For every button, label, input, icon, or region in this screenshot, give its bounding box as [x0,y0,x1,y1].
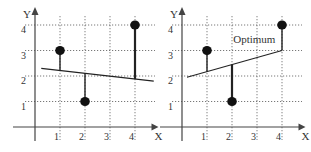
x-tick-label: 4 [276,131,281,142]
data-point [55,46,65,55]
x-tick-label: 3 [251,131,256,142]
y-axis-arrow-icon [179,7,186,15]
x-axis-label: X [302,130,310,142]
y-tick-label: 4 [21,24,26,35]
x-tick-label: 2 [226,131,231,142]
y-tick-label: 4 [168,24,173,35]
y-tick-label: 1 [21,101,26,112]
right-chart: 12341234XYOptimum [160,7,310,142]
y-tick-label: 3 [21,50,26,61]
x-tick-label: 3 [104,131,109,142]
x-tick-label: 1 [54,131,59,142]
data-point [202,46,212,55]
data-point [130,20,140,29]
data-point [227,97,237,106]
x-tick-label: 1 [201,131,206,142]
data-point [80,97,90,106]
left-chart: 12341234XY [13,7,163,142]
y-axis-arrow-icon [32,7,39,15]
optimum-label: Optimum [233,33,276,45]
x-tick-label: 4 [129,131,134,142]
y-tick-label: 1 [168,101,173,112]
y-tick-label: 2 [21,75,26,86]
y-tick-label: 3 [168,50,173,61]
figure: 12341234XY12341234XYOptimum [0,0,311,152]
x-axis-label: X [155,130,163,142]
data-point [277,20,287,29]
fit-line [187,51,282,78]
y-tick-label: 2 [168,75,173,86]
x-tick-label: 2 [79,131,84,142]
y-axis-label: Y [170,8,178,20]
fit-line [41,68,154,81]
y-axis-label: Y [23,8,31,20]
